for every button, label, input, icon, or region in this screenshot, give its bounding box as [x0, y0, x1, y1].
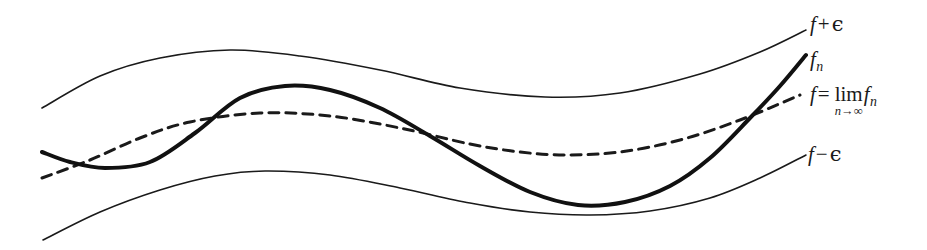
label-epsilon-symbol: ϵ — [832, 12, 844, 36]
label-limit-f-symbol: f — [810, 82, 816, 106]
label-limit-arrow: → — [841, 104, 854, 118]
label-fn-f-symbol: f — [810, 47, 816, 71]
label-limit-target-f: f — [864, 82, 870, 106]
label-f-minus-epsilon: f−ϵ — [808, 144, 841, 165]
label-f-equals-limit: f=limn→∞fn — [810, 84, 877, 109]
label-lower-f-symbol: f — [808, 142, 814, 166]
curve-f-plus-epsilon — [42, 30, 806, 108]
label-limit-subscript: n→∞ — [835, 105, 863, 118]
label-lim-text: lim — [835, 84, 863, 105]
label-f-plus-epsilon: f+ϵ — [810, 14, 843, 35]
label-f-n: fn — [810, 49, 823, 74]
curve-f-minus-epsilon — [43, 155, 806, 240]
curve-f-limit-dashed — [42, 95, 800, 178]
label-limit-infinity: ∞ — [854, 104, 863, 118]
label-fn-subscript: n — [816, 59, 823, 74]
limit-operator-stack: limn→∞ — [835, 84, 863, 105]
curves-canvas — [0, 0, 927, 250]
label-minus-operator: − — [814, 142, 830, 166]
label-lower-epsilon-symbol: ϵ — [830, 142, 842, 166]
label-plus-operator: + — [816, 12, 832, 36]
label-f-symbol: f — [810, 12, 816, 36]
uniform-convergence-figure: f+ϵ fn f=limn→∞fn f−ϵ — [0, 0, 927, 250]
label-limit-target-subscript: n — [870, 94, 877, 109]
label-equals-sign: = — [816, 82, 832, 106]
